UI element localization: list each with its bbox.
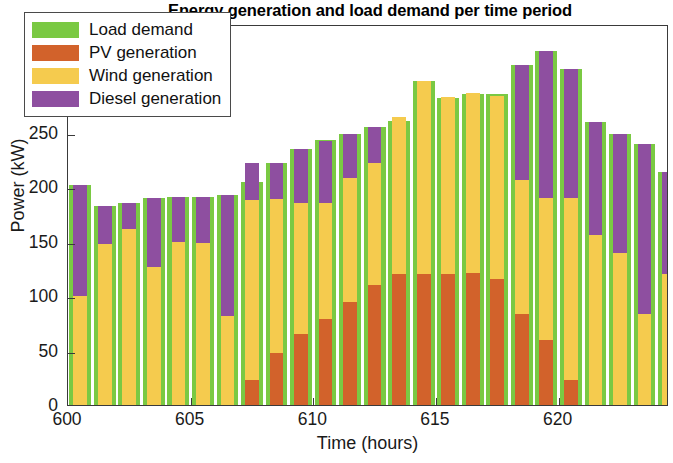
x-tick-mark	[313, 398, 314, 405]
wind-segment	[662, 274, 668, 405]
generation-stack-bar	[270, 163, 284, 405]
diesel-segment	[613, 134, 627, 253]
y-tick-label: 150	[0, 234, 58, 252]
x-tick-label: 610	[298, 409, 327, 430]
x-axis-label: Time (hours)	[67, 433, 668, 454]
wind-segment	[270, 199, 284, 352]
generation-stack-bar	[122, 203, 136, 405]
diesel-segment	[368, 127, 382, 163]
wind-segment	[196, 243, 210, 405]
pv-segment	[392, 274, 406, 405]
pv-segment	[539, 340, 553, 405]
generation-stack-bar	[73, 185, 87, 405]
generation-stack-bar	[368, 127, 382, 405]
wind-segment	[564, 198, 578, 380]
legend-label: Wind generation	[89, 67, 213, 84]
wind-segment	[441, 97, 455, 274]
wind-segment	[392, 117, 406, 275]
pv-segment	[441, 274, 455, 405]
generation-stack-bar	[343, 134, 357, 405]
generation-stack-bar	[638, 144, 652, 405]
y-tick-label: 100	[0, 288, 58, 306]
generation-stack-bar	[490, 96, 504, 405]
diesel-segment	[147, 198, 161, 267]
y-tick-mark	[68, 353, 75, 354]
pv-segment	[270, 353, 284, 405]
generation-stack-bar	[564, 69, 578, 405]
y-tick-mark	[68, 244, 75, 245]
generation-stack-bar	[466, 93, 480, 405]
generation-stack-bar	[172, 197, 186, 405]
pv-segment	[417, 274, 431, 405]
legend-item: PV generation	[32, 41, 221, 64]
x-tick-label: 600	[52, 409, 81, 430]
legend-swatch	[32, 22, 79, 38]
generation-stack-bar	[221, 195, 235, 405]
pv-segment	[515, 314, 529, 405]
generation-stack-bar	[294, 149, 308, 405]
diesel-segment	[98, 206, 112, 244]
wind-segment	[122, 229, 136, 405]
x-tick-mark	[191, 398, 192, 405]
generation-stack-bar	[245, 163, 259, 405]
y-tick-mark	[68, 189, 75, 190]
generation-stack-bar	[196, 197, 210, 405]
legend-swatch	[32, 91, 79, 107]
wind-segment	[98, 244, 112, 405]
legend-swatch	[32, 68, 79, 84]
wind-segment	[172, 242, 186, 405]
diesel-segment	[294, 149, 308, 202]
generation-stack-bar	[147, 198, 161, 405]
x-tick-mark	[559, 398, 560, 405]
wind-segment	[539, 198, 553, 340]
y-tick-label: 200	[0, 179, 58, 197]
wind-segment	[613, 253, 627, 405]
diesel-segment	[122, 203, 136, 229]
wind-segment	[221, 316, 235, 405]
diesel-segment	[245, 163, 259, 200]
wind-segment	[245, 200, 259, 380]
generation-stack-bar	[539, 51, 553, 405]
pv-segment	[368, 285, 382, 405]
y-tick-mark	[68, 135, 75, 136]
x-tick-label: 620	[543, 409, 572, 430]
diesel-segment	[319, 141, 333, 203]
generation-stack-bar	[417, 81, 431, 405]
generation-stack-bar	[613, 134, 627, 405]
diesel-segment	[564, 69, 578, 199]
wind-segment	[294, 203, 308, 335]
y-tick-label: 50	[0, 343, 58, 361]
diesel-segment	[638, 144, 652, 314]
legend-label: PV generation	[89, 44, 197, 61]
generation-stack-bar	[319, 140, 333, 405]
y-tick-label: 250	[0, 125, 58, 143]
wind-segment	[515, 180, 529, 314]
wind-segment	[319, 203, 333, 319]
diesel-segment	[343, 134, 357, 178]
x-tick-label: 615	[420, 409, 449, 430]
diesel-segment	[662, 172, 668, 274]
pv-segment	[343, 302, 357, 405]
pv-segment	[490, 279, 504, 405]
y-tick-label: 0	[0, 397, 58, 415]
diesel-segment	[270, 163, 284, 199]
wind-segment	[343, 178, 357, 302]
pv-segment	[245, 380, 259, 405]
x-tick-label: 605	[175, 409, 204, 430]
pv-segment	[319, 319, 333, 405]
wind-segment	[368, 163, 382, 285]
diesel-segment	[221, 195, 235, 316]
generation-stack-bar	[392, 117, 406, 405]
x-tick-mark	[436, 398, 437, 405]
chart-legend: Load demandPV generationWind generationD…	[24, 12, 231, 117]
diesel-segment	[589, 122, 603, 235]
legend-item: Diesel generation	[32, 87, 221, 110]
diesel-segment	[515, 65, 529, 179]
wind-segment	[638, 314, 652, 405]
diesel-segment	[539, 51, 553, 198]
wind-segment	[417, 81, 431, 275]
legend-item: Wind generation	[32, 64, 221, 87]
legend-swatch	[32, 45, 79, 61]
diesel-segment	[196, 197, 210, 243]
wind-segment	[589, 235, 603, 405]
